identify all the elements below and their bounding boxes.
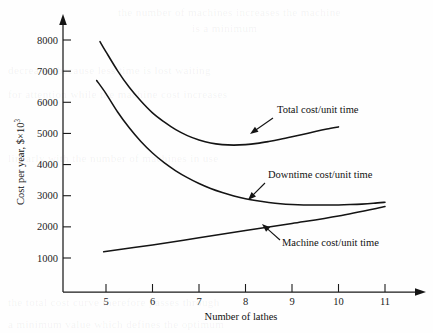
x-tick-label: 8	[243, 296, 248, 307]
y-tick-label: 5000	[37, 128, 58, 139]
y-axis	[59, 14, 67, 292]
line-chart: 10002000300040005000600070008000 5678910…	[0, 0, 433, 333]
y-axis-title-exponent: 3	[14, 119, 22, 123]
series-annotation-label: Machine cost/unit time	[282, 237, 379, 248]
data-curve	[100, 42, 339, 146]
svg-text:Cost per year, $×103: Cost per year, $×103	[14, 119, 26, 205]
x-axis-title: Number of lathes	[205, 311, 278, 322]
x-axis	[63, 288, 426, 296]
annotation-arrowhead	[250, 127, 259, 134]
x-tick-label: 11	[380, 296, 390, 307]
y-tick-label: 6000	[37, 97, 58, 108]
y-tick-label: 8000	[37, 35, 58, 46]
x-tick-label: 5	[103, 296, 108, 307]
y-tick-group: 10002000300040005000600070008000	[37, 35, 71, 264]
y-tick-label: 3000	[37, 190, 58, 201]
y-axis-title-text: Cost per year, $×10	[15, 123, 26, 205]
x-tick-label: 9	[289, 296, 294, 307]
y-tick-label: 7000	[37, 66, 58, 77]
series-annotation-label: Downtime cost/unit time	[268, 169, 373, 180]
y-tick-label: 4000	[37, 159, 58, 170]
x-tick-label: 7	[196, 296, 201, 307]
y-axis-title: Cost per year, $×103	[14, 119, 26, 205]
series-annotation-label: Total cost/unit time	[277, 104, 359, 115]
y-axis-arrowhead	[59, 14, 67, 25]
figure-container: the number of machines increases the mac…	[0, 0, 433, 333]
y-tick-label: 2000	[37, 221, 58, 232]
x-axis-arrowhead	[415, 288, 426, 296]
x-tick-label: 10	[333, 296, 344, 307]
x-tick-label: 6	[150, 296, 155, 307]
annotation-group: Total cost/unit timeDowntime cost/unit t…	[248, 104, 379, 248]
x-tick-group: 567891011	[103, 284, 390, 307]
y-tick-label: 1000	[37, 253, 58, 264]
data-series-group	[97, 42, 385, 252]
